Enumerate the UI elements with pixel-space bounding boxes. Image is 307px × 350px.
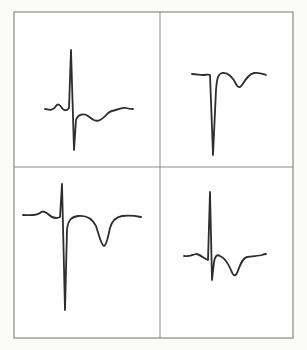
- ecg-panel-grid: [0, 0, 307, 350]
- ecg-figure: [0, 0, 307, 350]
- outer-frame: [14, 12, 293, 338]
